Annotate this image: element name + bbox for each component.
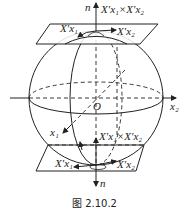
- figure-caption: 图 2.10.2: [72, 198, 117, 209]
- x1-label: x₁: [49, 126, 59, 138]
- x2-label: x₂: [169, 100, 179, 112]
- sphere-diagram: n X′x₁×X′x₂ X′x₁ X′x₂ O x₂ x₁ X′x₁×X′x₂ …: [0, 0, 192, 214]
- n-label-top: n: [85, 1, 91, 13]
- origin-label: O: [93, 100, 101, 112]
- x1-axis-outer: [63, 124, 72, 133]
- tangent2-label-top: X′x₂: [116, 25, 135, 37]
- tangent1-label-bottom: X′x₁: [54, 157, 73, 169]
- meridian-arrow: [80, 142, 82, 150]
- tangent2-label-bottom: X′x₂: [116, 158, 135, 170]
- top-tangent-plane: [36, 24, 158, 44]
- cross-label-bottom: X′x₁×X′x₂: [98, 130, 142, 142]
- cross-label-top: X′x₁×X′x₂: [100, 3, 144, 15]
- n-label-bottom: n: [100, 177, 106, 189]
- tangent1-label-top: X′x₁: [59, 22, 78, 34]
